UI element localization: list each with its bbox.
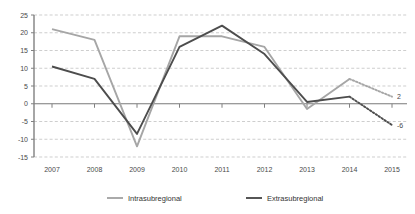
x-axis-tick-label: 2011 xyxy=(214,166,229,173)
x-axis-tick-label: 2010 xyxy=(172,166,188,173)
x-axis-tick-label: 2013 xyxy=(299,166,315,173)
line-chart: 2520151050-5-10-152007200820092010201120… xyxy=(0,0,415,214)
y-axis-tick-label: -10 xyxy=(18,136,28,143)
x-axis-tick-label: 2008 xyxy=(87,166,103,173)
data-label-extrasubregional: -6 xyxy=(397,122,403,129)
y-axis-tick-label: 15 xyxy=(20,47,28,54)
legend-label-extrasubregional: Extrasubregional xyxy=(267,194,324,203)
x-axis-tick-label: 2014 xyxy=(342,166,358,173)
y-axis-tick-label: 20 xyxy=(20,29,28,36)
y-axis-tick-label: 5 xyxy=(24,83,28,90)
chart-canvas: 2520151050-5-10-152007200820092010201120… xyxy=(0,0,415,214)
series-projection-intrasubregional xyxy=(350,79,393,97)
series-projection-extrasubregional xyxy=(350,97,393,125)
x-axis-tick-label: 2007 xyxy=(44,166,60,173)
series-line-intrasubregional xyxy=(52,29,350,146)
x-axis-tick-label: 2015 xyxy=(384,166,400,173)
x-axis-tick-label: 2012 xyxy=(257,166,273,173)
y-axis-tick-label: 10 xyxy=(20,65,28,72)
data-label-intrasubregional: 2 xyxy=(397,93,401,100)
y-axis-tick-label: -5 xyxy=(22,118,28,125)
y-axis-tick-label: 25 xyxy=(20,12,28,19)
legend-label-intrasubregional: Intrasubregional xyxy=(128,194,182,203)
series-line-extrasubregional xyxy=(52,26,350,134)
x-axis-tick-label: 2009 xyxy=(129,166,145,173)
y-axis-tick-label: 0 xyxy=(24,100,28,107)
y-axis-tick-label: -15 xyxy=(18,154,28,161)
